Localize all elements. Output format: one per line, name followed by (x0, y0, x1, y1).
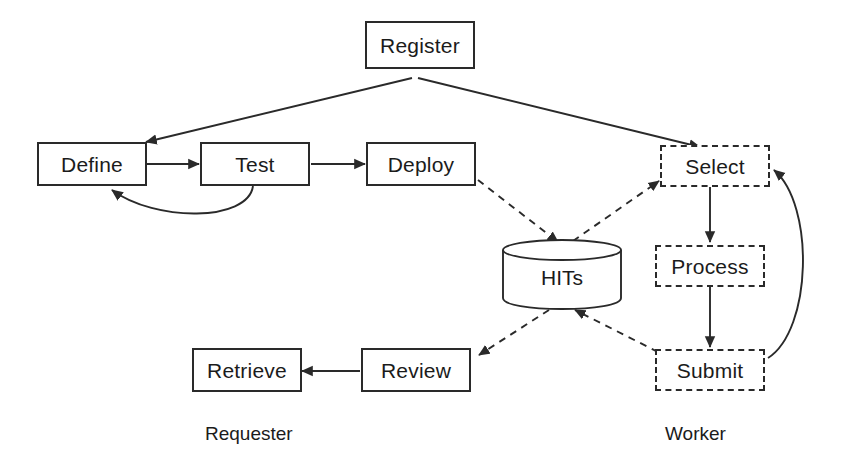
edge-register-to-select (418, 78, 700, 147)
diagram-connectors (0, 0, 866, 465)
node-select-label: Select (685, 156, 745, 177)
edge-hits-to-review (479, 310, 549, 355)
edge-submit-to-hits (575, 310, 658, 352)
node-select[interactable]: Select (660, 145, 770, 187)
node-test[interactable]: Test (200, 142, 310, 186)
node-submit-label: Submit (677, 360, 744, 381)
node-submit[interactable]: Submit (655, 349, 765, 391)
node-hits[interactable]: HITs (501, 238, 623, 310)
node-process-label: Process (671, 256, 748, 277)
caption-requester: Requester (205, 423, 293, 445)
node-retrieve[interactable]: Retrieve (192, 348, 302, 392)
edge-submit-to-select (768, 170, 803, 358)
node-retrieve-label: Retrieve (207, 360, 287, 381)
node-define[interactable]: Define (37, 142, 147, 186)
node-review[interactable]: Review (361, 348, 471, 392)
edge-hits-to-select (573, 181, 659, 241)
node-deploy-label: Deploy (388, 154, 455, 175)
node-register[interactable]: Register (365, 21, 475, 69)
node-review-label: Review (381, 360, 451, 381)
node-deploy[interactable]: Deploy (366, 142, 476, 186)
edge-deploy-to-hits (478, 180, 558, 242)
node-test-label: Test (235, 154, 274, 175)
node-process[interactable]: Process (655, 245, 765, 287)
edge-test-to-define (112, 186, 253, 214)
node-register-label: Register (380, 35, 460, 56)
workflow-diagram: Register Define Test Deploy HITs Select … (0, 0, 866, 465)
node-hits-label: HITs (541, 266, 583, 290)
edge-register-to-define (146, 78, 412, 142)
node-define-label: Define (61, 154, 123, 175)
caption-worker: Worker (665, 423, 726, 445)
